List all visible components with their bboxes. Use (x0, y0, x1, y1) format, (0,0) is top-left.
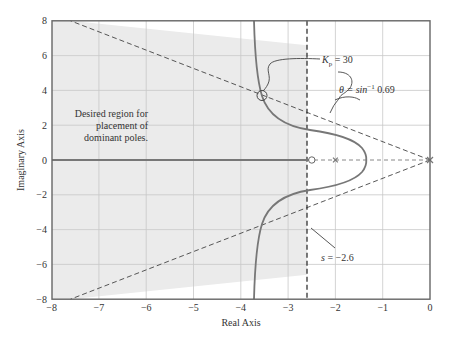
plot-svg: 8 6 4 2 0 −2 −4 −6 −8 −8 −7 −6 −5 −4 −3 … (0, 0, 449, 339)
s-value: = −2.6 (325, 252, 354, 263)
root-locus-chart: 8 6 4 2 0 −2 −4 −6 −8 −8 −7 −6 −5 −4 −3 … (0, 0, 449, 339)
x-tick-labels: −8 −7 −6 −5 −4 −3 −2 −1 0 (46, 302, 432, 313)
x-tick-label: −5 (188, 302, 199, 313)
s-leader (311, 228, 335, 248)
region-label-line: Desired region for (75, 108, 149, 119)
y-tick-label: 2 (42, 120, 47, 131)
x-tick-label: −2 (330, 302, 341, 313)
y-tick-label: −2 (36, 189, 47, 200)
theta-value: 0.69 (375, 84, 395, 95)
kp-value: = 30 (332, 54, 353, 65)
x-tick-label: −1 (377, 302, 388, 313)
theta-main: θ = sin (339, 84, 367, 95)
theta-annotation-text: θ = sin−1 0.69 (339, 83, 395, 95)
s-annotation: s = −2.6 (321, 252, 354, 263)
region-label-line: dominant poles. (84, 132, 148, 143)
y-tick-label: −6 (36, 259, 47, 270)
y-tick-label: 0 (42, 155, 47, 166)
x-tick-label: −4 (235, 302, 246, 313)
y-tick-label: −4 (36, 224, 47, 235)
y-axis-label: Imaginary Axis (15, 129, 26, 191)
region-label-line: placement of (96, 120, 149, 131)
y-tick-label: 4 (42, 85, 47, 96)
x-axis-label: Real Axis (221, 317, 260, 328)
x-tick-label: −3 (283, 302, 294, 313)
x-tick-label: 0 (428, 302, 433, 313)
y-tick-labels: 8 6 4 2 0 −2 −4 −6 −8 (36, 15, 47, 304)
x-tick-label: −8 (46, 302, 57, 313)
y-tick-label: 8 (42, 15, 47, 26)
y-tick-label: 6 (42, 50, 47, 61)
zero-marker (309, 157, 315, 163)
kp-annotation: Kp = 30 (321, 54, 353, 68)
x-tick-label: −7 (94, 302, 105, 313)
x-tick-label: −6 (141, 302, 152, 313)
